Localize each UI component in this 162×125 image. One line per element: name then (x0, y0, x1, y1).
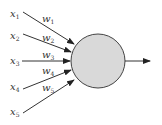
weight-label-5: w5 (42, 82, 55, 94)
input-label-3: x3 (10, 55, 20, 67)
weight-label-1: w1 (42, 13, 54, 25)
weight-label-2: w2 (42, 32, 55, 44)
perceptron-diagram: x1 x2 x3 x4 x5 w1 w2 w3 w4 w5 (0, 0, 162, 125)
weight-label-4: w4 (42, 65, 55, 77)
input-label-4: x4 (10, 81, 20, 93)
weight-label-3: w3 (42, 49, 55, 61)
neuron-node (71, 34, 125, 88)
input-label-2: x2 (10, 30, 20, 42)
input-label-5: x5 (10, 106, 20, 118)
input-label-1: x1 (10, 8, 19, 20)
